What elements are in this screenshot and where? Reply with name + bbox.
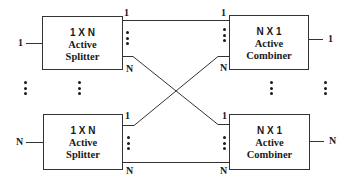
wire-sn-c1 bbox=[122, 57, 229, 126]
input-1-label: 1 bbox=[18, 38, 23, 48]
combiner-n-port-ellipsis bbox=[223, 136, 227, 153]
splitter-n-label: 1 X N Active Splitter bbox=[43, 125, 123, 161]
splitter-n-port-1: 1 bbox=[125, 111, 130, 121]
splitter-1-port-1: 1 bbox=[124, 8, 129, 18]
combiner-1-port-ellipsis bbox=[223, 28, 227, 45]
splitter-1-port-ellipsis bbox=[126, 31, 130, 48]
output-1-label: 1 bbox=[328, 34, 333, 44]
combiner-n-port-1: 1 bbox=[222, 111, 227, 121]
splitter-n-port-n: N bbox=[126, 166, 133, 176]
left-input-ellipsis bbox=[24, 81, 28, 98]
splitter-stack-ellipsis bbox=[78, 81, 82, 98]
wire-s1-cn bbox=[122, 57, 229, 125]
combiner-1-port-1: 1 bbox=[221, 8, 226, 18]
splitter-1-label: 1 X N Active Splitter bbox=[42, 27, 123, 63]
right-output-ellipsis bbox=[324, 81, 328, 98]
combiner-stack-ellipsis bbox=[270, 81, 274, 98]
input-n-label: N bbox=[16, 137, 23, 147]
splitter-n-port-ellipsis bbox=[127, 136, 131, 153]
combiner-1-port-n: N bbox=[220, 63, 227, 73]
splitter-1-port-n: N bbox=[126, 64, 133, 74]
combiner-n-port-n: N bbox=[220, 166, 227, 176]
combiner-1-label: N X 1 Active Combiner bbox=[229, 26, 309, 62]
output-n-label: N bbox=[329, 136, 336, 146]
combiner-n-label: N X 1 Active Combiner bbox=[229, 125, 310, 161]
